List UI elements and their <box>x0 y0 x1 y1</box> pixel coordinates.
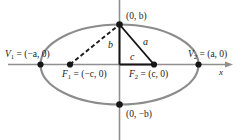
point-vertex-right <box>195 61 201 67</box>
label-focus-left: F1 = (−c, 0) <box>62 70 107 80</box>
x-axis-arrowhead <box>225 61 233 67</box>
label-co-vertex-top: (0, b) <box>126 12 147 22</box>
point-co-vertex-top <box>116 21 123 28</box>
label-segment-a: a <box>143 37 148 47</box>
label-x-axis: x <box>219 68 223 77</box>
point-focus-left <box>67 61 73 67</box>
point-co-vertex-bottom <box>116 101 123 108</box>
label-focus-right: F2 = (c, 0) <box>129 70 168 80</box>
point-vertex-left <box>37 61 43 67</box>
label-vertex-left: V1 = (−a, 0) <box>5 50 50 60</box>
point-focus-right <box>151 61 157 67</box>
label-vertex-right: V2 = (a, 0) <box>188 50 227 60</box>
ellipse-figure: (0, b) (0, −b) V1 = (−a, 0) V2 = (a, 0) … <box>0 0 241 140</box>
label-segment-b: b <box>108 40 113 50</box>
segment-a <box>120 25 155 65</box>
label-segment-c: c <box>130 52 134 62</box>
ellipse-diagram-svg <box>0 0 241 140</box>
label-co-vertex-bottom: (0, −b) <box>126 110 152 120</box>
